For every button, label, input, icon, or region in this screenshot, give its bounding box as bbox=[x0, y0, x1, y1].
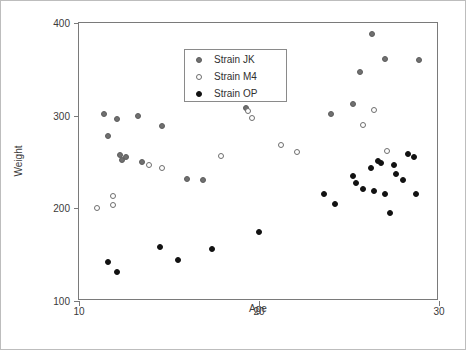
legend-label: Strain OP bbox=[214, 88, 257, 99]
data-point bbox=[110, 202, 116, 208]
legend-item-m4[interactable]: Strain M4 bbox=[185, 68, 286, 85]
y-tick-mark bbox=[74, 23, 79, 24]
data-point bbox=[387, 210, 393, 216]
legend-item-jk[interactable]: Strain JK bbox=[185, 51, 286, 68]
data-point bbox=[245, 108, 251, 114]
legend-label: Strain M4 bbox=[214, 71, 257, 82]
data-point bbox=[411, 154, 417, 160]
legend-label: Strain JK bbox=[214, 54, 255, 65]
y-axis-label: Weight bbox=[13, 146, 24, 177]
data-point bbox=[135, 113, 141, 119]
data-point bbox=[332, 201, 338, 207]
data-point bbox=[218, 153, 224, 159]
data-point bbox=[249, 115, 255, 121]
data-point bbox=[146, 162, 152, 168]
legend-item-op[interactable]: Strain OP bbox=[185, 85, 286, 102]
data-point bbox=[360, 122, 366, 128]
data-point bbox=[378, 160, 384, 166]
plot-area: 100200300400 102030 Strain JKStrain M4St… bbox=[78, 22, 438, 300]
data-point bbox=[350, 101, 356, 107]
data-point bbox=[114, 269, 120, 275]
data-point bbox=[159, 165, 165, 171]
data-point bbox=[360, 186, 366, 192]
y-tick-mark bbox=[74, 116, 79, 117]
data-point bbox=[278, 142, 284, 148]
data-point bbox=[371, 107, 377, 113]
data-point bbox=[114, 116, 120, 122]
data-point bbox=[175, 257, 181, 263]
data-point bbox=[328, 111, 334, 117]
data-point bbox=[393, 171, 399, 177]
data-point bbox=[416, 57, 422, 63]
legend-marker-icon bbox=[196, 74, 202, 80]
data-point bbox=[157, 244, 163, 250]
data-point bbox=[413, 191, 419, 197]
legend-marker-icon bbox=[196, 91, 202, 97]
scatter-plot-figure: 100200300400 102030 Strain JKStrain M4St… bbox=[0, 0, 466, 350]
data-point bbox=[382, 191, 388, 197]
data-point bbox=[105, 259, 111, 265]
data-point bbox=[357, 69, 363, 75]
x-axis-label: Age bbox=[78, 303, 438, 314]
data-point bbox=[371, 188, 377, 194]
data-point bbox=[184, 176, 190, 182]
y-tick-mark bbox=[74, 208, 79, 209]
data-point bbox=[353, 180, 359, 186]
legend-box: Strain JKStrain M4Strain OP bbox=[184, 49, 287, 102]
data-point bbox=[200, 177, 206, 183]
data-point bbox=[400, 177, 406, 183]
data-point bbox=[110, 193, 116, 199]
data-point bbox=[384, 148, 390, 154]
data-point bbox=[294, 149, 300, 155]
data-point bbox=[321, 191, 327, 197]
data-point bbox=[209, 246, 215, 252]
data-point bbox=[368, 165, 374, 171]
data-point bbox=[105, 133, 111, 139]
y-tick-label: 100 bbox=[53, 296, 70, 307]
data-point bbox=[139, 159, 145, 165]
data-point bbox=[123, 154, 129, 160]
data-point bbox=[391, 162, 397, 168]
data-point bbox=[94, 205, 100, 211]
data-point bbox=[369, 31, 375, 37]
legend-marker-icon bbox=[196, 57, 202, 63]
data-point bbox=[101, 111, 107, 117]
data-point bbox=[256, 229, 262, 235]
data-point bbox=[350, 173, 356, 179]
y-tick-label: 200 bbox=[53, 203, 70, 214]
data-point bbox=[382, 56, 388, 62]
data-point bbox=[159, 123, 165, 129]
y-tick-label: 400 bbox=[53, 18, 70, 29]
y-tick-label: 300 bbox=[53, 110, 70, 121]
